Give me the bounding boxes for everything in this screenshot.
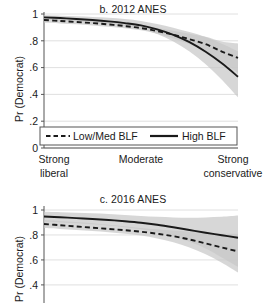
y-tick-label: .8 (29, 35, 38, 47)
x-tick-label: Strong (39, 153, 70, 165)
chart-panel-2016: c. 2016 ANES Pr (Democrat) 1.8.6.4 (0, 192, 266, 303)
y-tick-label: .4 (29, 279, 38, 291)
x-tick-label-line2: conservative (204, 167, 263, 179)
y-tick-label: .8 (29, 229, 38, 241)
y-tick-label: .4 (29, 88, 38, 100)
legend-label-low-med-blf: Low/Med BLF (73, 130, 138, 142)
figure-container: b. 2012 ANES Pr (Democrat) 0.2.4.6.81Low… (0, 0, 266, 303)
x-tick-label-line2: liberal (40, 167, 68, 179)
x-tick-label: Strong (218, 153, 249, 165)
y-tick-label: .6 (29, 254, 38, 266)
plot-area-2012: 0.2.4.6.81Low/Med BLFHigh BLFStrongliber… (0, 0, 266, 190)
y-tick-label: 1 (32, 204, 38, 216)
y-tick-label: .6 (29, 61, 38, 73)
plot-area-2016: 1.8.6.4 (0, 192, 266, 303)
chart-panel-2012: b. 2012 ANES Pr (Democrat) 0.2.4.6.81Low… (0, 0, 266, 190)
x-tick-label: Moderate (119, 153, 164, 165)
y-tick-label: .2 (29, 115, 38, 127)
y-tick-label: 0 (32, 142, 38, 154)
confidence-band (44, 212, 238, 267)
legend-label-high-blf: High BLF (182, 130, 226, 142)
y-tick-label: 1 (32, 8, 38, 20)
confidence-band (44, 15, 238, 97)
